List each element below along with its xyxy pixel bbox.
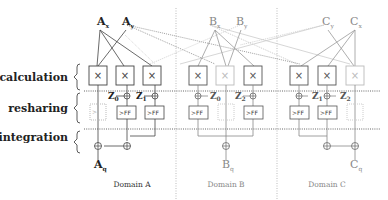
ff-label-c1: >FF [320, 109, 332, 116]
z-label-b0: Z0 [210, 91, 221, 102]
ff-label-c0: >FF [292, 109, 304, 116]
output-bq: Bq [222, 158, 234, 173]
multiplier-b0: × [194, 70, 202, 81]
domain-c: Cy Cx × × × [290, 15, 364, 189]
multiplier-a2: × [148, 70, 156, 81]
cross-domain-wires [125, 25, 300, 64]
domain-label-a: Domain A [113, 180, 151, 189]
input-bx: Bx [209, 15, 221, 29]
masking-diagram: calculation resharing integration Ax Ay [0, 0, 388, 200]
z-label-c1: Z1 [312, 91, 323, 102]
ff-label-a1: >FF [119, 109, 131, 116]
ff-label-b2: >FF [246, 109, 258, 116]
z-label-c2: Z2 [340, 91, 351, 102]
input-ax: Ax [96, 15, 110, 29]
output-cq: Cq [350, 158, 362, 173]
input-cx: Cx [350, 15, 362, 29]
domain-label-b: Domain B [207, 180, 245, 189]
stage-label-resharing: resharing [8, 102, 68, 115]
multiplier-c1: × [323, 70, 331, 81]
multiplier-a0: × [94, 70, 102, 81]
z-label-a1: Z1 [136, 91, 147, 102]
svg-text:>: > [92, 108, 97, 115]
domain-label-c: Domain C [308, 180, 346, 189]
multiplier-b2: × [249, 70, 257, 81]
ff-label-b0: >FF [191, 109, 203, 116]
z-label-a0: Z0 [108, 91, 119, 102]
z-label-b2: Z2 [235, 91, 246, 102]
ff-label-a2: >FF [147, 109, 159, 116]
multiplier-c2: × [351, 70, 359, 81]
input-ay: Ay [121, 15, 135, 30]
output-aq: Aq [93, 158, 108, 173]
input-by: By [236, 15, 248, 30]
multiplier-b1: × [221, 70, 229, 81]
stage-braces [74, 64, 80, 153]
multiplier-c0: × [295, 70, 303, 81]
stage-label-calculation: calculation [0, 71, 68, 84]
stage-label-integration: integration [0, 131, 68, 144]
multiplier-a1: × [121, 70, 129, 81]
input-cy: Cy [322, 15, 334, 30]
domain-a: Ax Ay × × × [89, 15, 164, 189]
